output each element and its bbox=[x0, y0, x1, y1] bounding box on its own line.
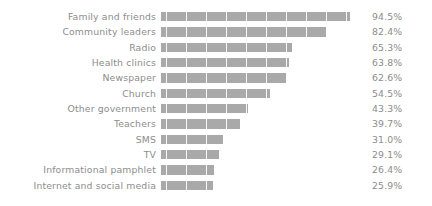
value-label: 25.9% bbox=[361, 181, 427, 190]
category-label: Informational pamphlet bbox=[0, 165, 161, 174]
bar-track bbox=[161, 86, 361, 101]
chart-row: TV29.1% bbox=[0, 147, 432, 162]
category-label: Community leaders bbox=[0, 27, 161, 36]
value-label: 26.4% bbox=[361, 165, 427, 174]
bar-track bbox=[161, 132, 361, 147]
bar-track bbox=[161, 70, 361, 85]
bar-track bbox=[161, 101, 361, 116]
chart-row: Family and friends94.5% bbox=[0, 9, 432, 24]
bar-track bbox=[161, 162, 361, 177]
category-label: Church bbox=[0, 89, 161, 98]
category-label: Family and friends bbox=[0, 12, 161, 21]
bar-track bbox=[161, 24, 361, 39]
category-label: Teachers bbox=[0, 119, 161, 128]
chart-row: Community leaders82.4% bbox=[0, 24, 432, 39]
value-label: 29.1% bbox=[361, 150, 427, 159]
category-label: Health clinics bbox=[0, 58, 161, 67]
value-label: 62.6% bbox=[361, 73, 427, 82]
bar bbox=[161, 73, 286, 82]
category-label: Newspaper bbox=[0, 73, 161, 82]
value-label: 39.7% bbox=[361, 119, 427, 128]
bar bbox=[161, 43, 292, 52]
horizontal-bar-chart: Family and friends94.5%Community leaders… bbox=[0, 0, 432, 206]
chart-row: Other government43.3% bbox=[0, 101, 432, 116]
value-label: 43.3% bbox=[361, 104, 427, 113]
bar-track bbox=[161, 40, 361, 55]
chart-row: Church54.5% bbox=[0, 86, 432, 101]
value-label: 65.3% bbox=[361, 43, 427, 52]
chart-row: Internet and social media25.9% bbox=[0, 178, 432, 193]
chart-rows: Family and friends94.5%Community leaders… bbox=[0, 9, 432, 193]
bar-track bbox=[161, 147, 361, 162]
chart-row: Newspaper62.6% bbox=[0, 70, 432, 85]
category-label: TV bbox=[0, 150, 161, 159]
value-label: 31.0% bbox=[361, 135, 427, 144]
bar bbox=[161, 165, 214, 174]
bar bbox=[161, 58, 289, 67]
bar-track bbox=[161, 116, 361, 131]
bar bbox=[161, 135, 223, 144]
bar bbox=[161, 181, 213, 190]
bar bbox=[161, 104, 248, 113]
bar bbox=[161, 150, 219, 159]
value-label: 82.4% bbox=[361, 27, 427, 36]
bar-track bbox=[161, 55, 361, 70]
chart-row: SMS31.0% bbox=[0, 132, 432, 147]
chart-row: Informational pamphlet26.4% bbox=[0, 162, 432, 177]
chart-row: Radio65.3% bbox=[0, 40, 432, 55]
bar bbox=[161, 12, 350, 21]
category-label: Internet and social media bbox=[0, 181, 161, 190]
chart-row: Teachers39.7% bbox=[0, 116, 432, 131]
bar-track bbox=[161, 9, 361, 24]
chart-row: Health clinics63.8% bbox=[0, 55, 432, 70]
value-label: 54.5% bbox=[361, 89, 427, 98]
bar bbox=[161, 89, 270, 98]
bar bbox=[161, 27, 326, 36]
bar-track bbox=[161, 178, 361, 193]
value-label: 94.5% bbox=[361, 12, 427, 21]
bar bbox=[161, 119, 240, 128]
category-label: Other government bbox=[0, 104, 161, 113]
value-label: 63.8% bbox=[361, 58, 427, 67]
category-label: Radio bbox=[0, 43, 161, 52]
category-label: SMS bbox=[0, 135, 161, 144]
